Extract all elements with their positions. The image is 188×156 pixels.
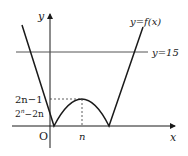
peak-x-label: n bbox=[79, 131, 85, 142]
function-graph: y x O n 2n−1 2n−2n y=f(x) y=15 bbox=[0, 0, 188, 156]
y-axis-label: y bbox=[37, 10, 45, 23]
intercept-label: 2n−2n bbox=[15, 107, 44, 119]
origin-label: O bbox=[39, 130, 48, 143]
peak-y-label: 2n−1 bbox=[15, 94, 43, 105]
x-axis-label: x bbox=[170, 131, 177, 144]
y15-label: y=15 bbox=[151, 47, 179, 58]
function-label: y=f(x) bbox=[129, 16, 161, 27]
